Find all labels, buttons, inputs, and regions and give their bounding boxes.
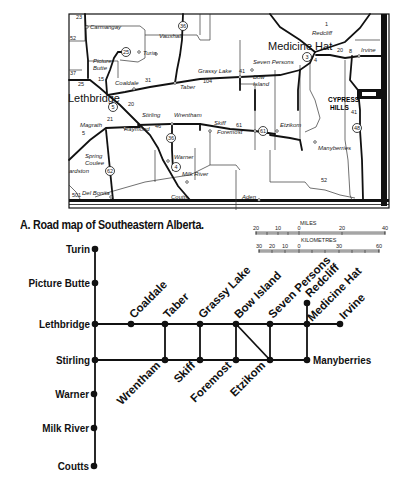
miles-bar [256,231,385,235]
provincial-border [381,14,387,206]
map-label-cardston: ardston [69,168,90,174]
node-grassy-lake [197,321,204,328]
map-label-lethbridge: Lethbridge [68,92,120,104]
label-milk-river: Milk River [42,421,89,434]
km-ticks: 30 20 10 0 30 60 [256,243,382,249]
km-title: KILOMETRES [301,237,337,243]
south-line-labels: Wrentham Skiff Foremost Etzikom [114,359,267,407]
node-coaldale [128,321,135,328]
svg-text:20: 20 [337,47,343,53]
map-label-spring-coulee-2: Coulee [85,160,105,166]
node-picture-butte [92,280,99,287]
svg-text:31: 31 [145,77,151,83]
map-label-grassy-lake: Grassy Lake [198,68,232,74]
node-medicine-hat [304,321,311,328]
svg-text:10: 10 [275,225,281,231]
shield-61: 61 [260,128,266,134]
node-taber [162,321,169,328]
svg-text:0: 0 [297,243,300,249]
map-label-turin: Turin [143,50,157,56]
road-network-graph: Turin Picture Butte Lethbridge Stirling … [28,242,371,472]
svg-text:20: 20 [339,225,345,231]
map-label-picture-butte-2: Butte [93,65,108,71]
map-label-skiff: Skiff [214,120,227,126]
label-etzikom: Etzikom [228,359,268,399]
figure-caption: A. Road map of Southeastern Alberta. [20,218,204,232]
map-label-aden: Aden [241,194,257,200]
cypress-hills-area [357,89,383,99]
label-lethbridge: Lethbridge [39,317,90,330]
map-label-foremost: Foremost [217,129,243,135]
map-label-redcliff: Redcliff [312,30,333,36]
edge-bowisland-etzikom [236,324,270,360]
label-warner: Warner [55,387,89,400]
map-label-vauxhall: Vauxhall [159,33,182,39]
svg-text:41: 41 [239,68,245,74]
map-label-coutts: Coutts [171,194,188,200]
svg-text:4: 4 [314,57,317,63]
node-coutts [91,463,98,470]
node-irvine [337,321,344,328]
shield-3: 3 [305,54,308,60]
shield-36-south: 36 [168,135,174,141]
svg-text:0: 0 [297,225,300,231]
map-scale: MILES 20 10 0 20 40 KILOMETRES 30 20 10 … [253,220,388,253]
svg-text:60: 60 [376,243,382,249]
road-map: 36 25 5 36 4 62 61 3 48 Carmangay Vauxha… [68,14,389,210]
node-lethbridge [92,321,99,328]
label-coutts: Coutts [58,459,89,472]
svg-text:41: 41 [351,109,357,115]
international-border [69,199,389,202]
svg-text:52: 52 [70,35,76,41]
map-label-stirling: Stirling [142,112,161,118]
map-label-bow-island-2: Island [253,81,270,87]
map-label-seven-persons: Seven Persons [253,59,294,65]
map-label-wrentham: Wrentham [174,112,202,118]
map-label-magrath: Magrath [80,122,103,128]
svg-text:25: 25 [78,81,84,87]
svg-text:15: 15 [98,76,104,82]
shield-4: 4 [174,164,177,170]
trunk-labels: Turin Picture Butte Lethbridge Stirling … [28,242,90,472]
svg-text:20: 20 [128,101,134,107]
svg-text:23: 23 [76,14,82,20]
map-label-carmangay: Carmangay [90,24,122,30]
map-label-taber: Taber [180,84,196,90]
svg-text:5: 5 [82,130,85,136]
node-milk-river [91,425,98,432]
svg-text:7: 7 [73,70,76,76]
label-skiff: Skiff [171,359,197,385]
node-wrentham [162,357,169,364]
miles-ticks: 20 10 0 20 40 [253,225,388,231]
north-line-labels: Coaldale Taber Grassy Lake Bow Island Se… [127,254,367,324]
svg-text:52: 52 [321,177,327,183]
svg-text:46: 46 [155,123,161,129]
svg-text:10: 10 [282,243,288,249]
svg-text:30: 30 [256,243,262,249]
map-label-picture-butte-1: Picture [93,58,112,64]
map-label-cypress-hills-1: CYPRESS [328,96,360,103]
node-skiff [197,357,204,364]
label-stirling: Stirling [56,353,90,366]
node-redcliff [304,300,311,307]
map-label-etzikom: Etzikom [280,122,301,128]
svg-text:20: 20 [269,243,275,249]
shield-48: 48 [354,125,360,131]
km-bar [259,249,379,253]
map-label-raymond: Raymond [124,126,150,132]
label-irvine: Irvine [337,291,367,321]
label-turin: Turin [66,242,90,255]
node-foremost [233,357,240,364]
svg-text:30: 30 [336,243,342,249]
map-label-bow-island-1: Bow [253,74,265,80]
node-warner [91,391,98,398]
figure-canvas: 36 25 5 36 4 62 61 3 48 Carmangay Vauxha… [0,0,409,477]
node-seven-persons [267,321,274,328]
label-wrentham: Wrentham [114,359,162,407]
svg-text:21: 21 [107,116,113,122]
map-label-medicine-hat: Medicine Hat [268,40,332,52]
node-turin [92,246,99,253]
map-label-manyberries: Manyberries [318,145,351,151]
node-bow-island [233,321,240,328]
map-label-del-bonita: Del Bonita [82,190,110,196]
